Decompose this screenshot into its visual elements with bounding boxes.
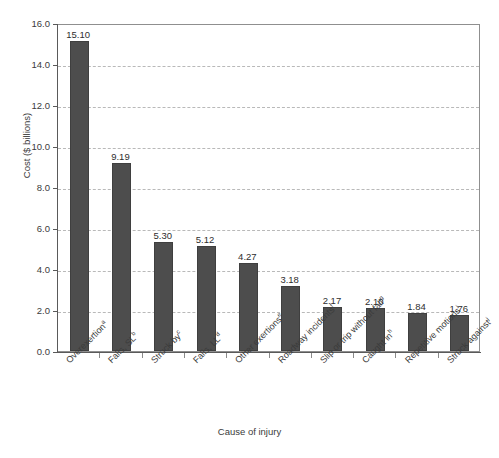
bar-value-label: 5.12 <box>185 234 225 245</box>
x-tick <box>99 353 100 358</box>
y-tick <box>53 229 57 230</box>
x-axis-title: Cause of injury <box>0 426 499 437</box>
y-tick <box>53 188 57 189</box>
bar-value-label: 4.27 <box>227 251 267 262</box>
y-tick <box>53 311 57 312</box>
gridline <box>58 107 479 108</box>
bar-value-label: 5.30 <box>143 230 183 241</box>
bar-value-label: 2.17 <box>312 295 352 306</box>
bar-value-label: 9.19 <box>100 151 140 162</box>
y-tick-label: 0.0 <box>16 346 50 357</box>
gridline <box>58 148 479 149</box>
x-tick <box>184 353 185 358</box>
y-tick <box>53 106 57 107</box>
y-tick-label: 16.0 <box>16 18 50 29</box>
x-tick <box>226 353 227 358</box>
bar <box>70 41 89 351</box>
x-tick <box>269 353 270 358</box>
y-tick-label: 6.0 <box>16 223 50 234</box>
bar-value-label: 2.10 <box>354 296 394 307</box>
bar-value-label: 1.76 <box>439 303 479 314</box>
y-tick <box>53 24 57 25</box>
cut-off-caption <box>26 0 466 7</box>
x-tick <box>353 353 354 358</box>
bar-value-label: 3.18 <box>270 274 310 285</box>
x-tick <box>311 353 312 358</box>
bar-value-label: 1.84 <box>397 301 437 312</box>
y-tick-label: 4.0 <box>16 264 50 275</box>
bar <box>112 163 131 351</box>
y-tick-label: 2.0 <box>16 305 50 316</box>
y-tick <box>53 65 57 66</box>
x-tick <box>395 353 396 358</box>
footnote-marker: j <box>484 316 489 321</box>
y-tick-label: 14.0 <box>16 59 50 70</box>
y-axis-line <box>57 24 58 353</box>
y-tick <box>53 147 57 148</box>
x-tick <box>438 353 439 358</box>
bar-value-label: 15.10 <box>58 29 98 40</box>
y-tick <box>53 270 57 271</box>
bar-chart-figure: 16.014.012.010.08.06.04.02.00.0 Cost ($ … <box>0 0 499 458</box>
y-axis-title: Cost ($ billions) <box>21 76 32 216</box>
gridline <box>58 66 479 67</box>
x-tick <box>142 353 143 358</box>
